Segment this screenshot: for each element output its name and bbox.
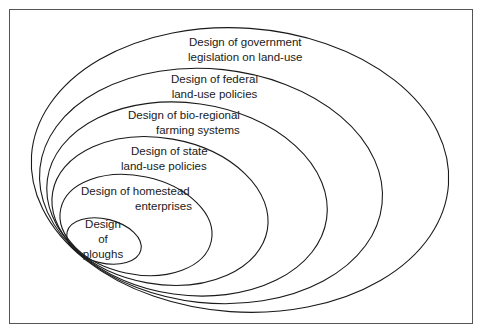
label-homestead: Design of homestead enterprises xyxy=(81,184,192,214)
label-bioregional: Design of bio-regional farming systems xyxy=(128,108,240,138)
ellipse-homestead xyxy=(50,161,221,289)
label-ploughs: Design of ploughs xyxy=(82,217,124,262)
label-state: Design of state land-use policies xyxy=(121,144,208,174)
label-federal: Design of federal land-use policies xyxy=(171,72,258,102)
label-government: Design of government legislation on land… xyxy=(188,35,302,65)
